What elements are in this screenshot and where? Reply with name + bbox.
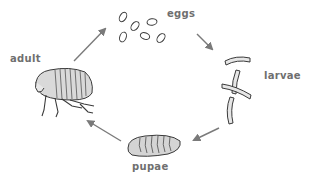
larvae-icon bbox=[222, 57, 251, 124]
adult-flea-icon bbox=[35, 68, 94, 117]
arrow-eggs-to-larvae bbox=[197, 34, 212, 49]
larvae-label: larvae bbox=[264, 71, 301, 81]
diagram-artwork bbox=[0, 0, 310, 176]
pupa-icon bbox=[128, 135, 180, 156]
eggs-icon bbox=[118, 11, 167, 44]
arrow-pupae-to-adult bbox=[88, 121, 121, 141]
flea-life-cycle-diagram: eggs larvae pupae adult bbox=[0, 0, 310, 176]
pupae-label: pupae bbox=[132, 162, 168, 172]
arrow-adult-to-eggs bbox=[74, 29, 105, 61]
adult-label: adult bbox=[10, 54, 41, 64]
arrow-larvae-to-pupae bbox=[194, 128, 219, 140]
eggs-label: eggs bbox=[167, 9, 195, 19]
